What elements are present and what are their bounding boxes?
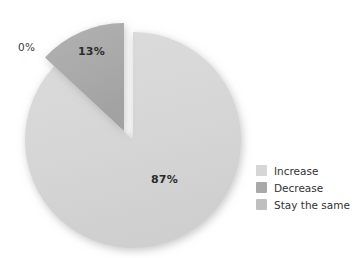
slice-value-increase: 87% [151,173,178,186]
pie-chart-canvas [0,0,362,258]
legend-item-decrease[interactable]: Decrease [256,179,362,196]
pie-chart: 87% 13% 0% Increase Decrease Stay the sa… [0,0,362,258]
slice-value-decrease: 13% [78,45,105,58]
legend-label-increase: Increase [274,165,318,177]
legend-swatch-decrease [256,182,267,193]
legend-swatch-increase [256,165,267,176]
legend-item-stay-the-same[interactable]: Stay the same [256,196,362,213]
slice-value-stay-the-same: 0% [18,41,35,53]
legend-label-decrease: Decrease [274,182,323,194]
legend-item-increase[interactable]: Increase [256,162,362,179]
chart-legend: Increase Decrease Stay the same [256,162,362,213]
legend-label-stay-the-same: Stay the same [274,199,350,211]
legend-swatch-stay-the-same [256,199,267,210]
